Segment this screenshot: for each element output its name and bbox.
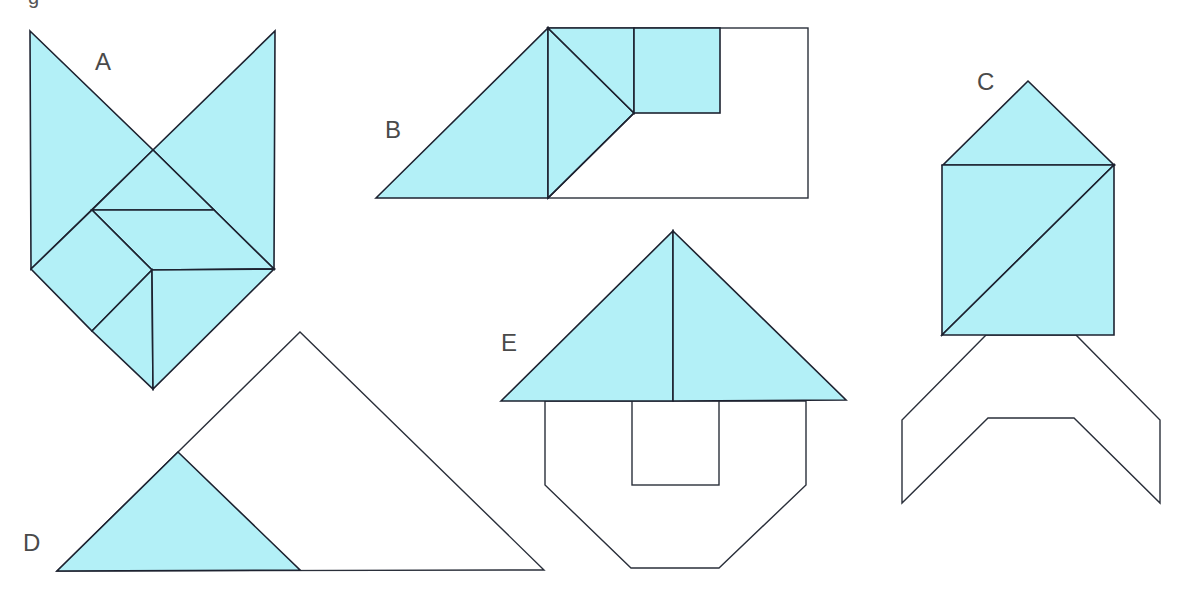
figure-b-label: B [385, 118, 401, 142]
figure-e-roof-right-triangle [673, 231, 846, 401]
figure-b [376, 28, 808, 198]
figure-e-label: E [501, 331, 517, 355]
figure-e [501, 231, 846, 568]
figure-b-square [634, 28, 720, 113]
figure-b-large-triangle [376, 28, 548, 198]
figure-c-top-triangle [943, 81, 1114, 165]
tangram-figures-canvas [0, 0, 1184, 589]
figure-e-square-notch [632, 401, 719, 485]
figure-a [30, 31, 275, 389]
figure-c [902, 81, 1160, 503]
figure-d-label: D [23, 531, 40, 555]
figure-e-roof-left-triangle [501, 231, 673, 401]
figure-a-label: A [95, 50, 111, 74]
figure-c-chevron-outline [902, 335, 1160, 503]
figure-a-medium-triangle [152, 269, 274, 389]
figure-c-label: C [977, 70, 994, 94]
